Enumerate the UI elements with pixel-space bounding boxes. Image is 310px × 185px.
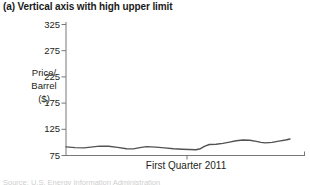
chart-canvas	[0, 0, 310, 185]
source-caption-partial: Source: U.S. Energy Information Administ…	[3, 178, 160, 185]
chart-figure: (a) Vertical axis with high upper limit …	[0, 0, 310, 185]
x-axis-label: First Quarter 2011	[129, 160, 243, 171]
price-line-series	[66, 139, 290, 150]
